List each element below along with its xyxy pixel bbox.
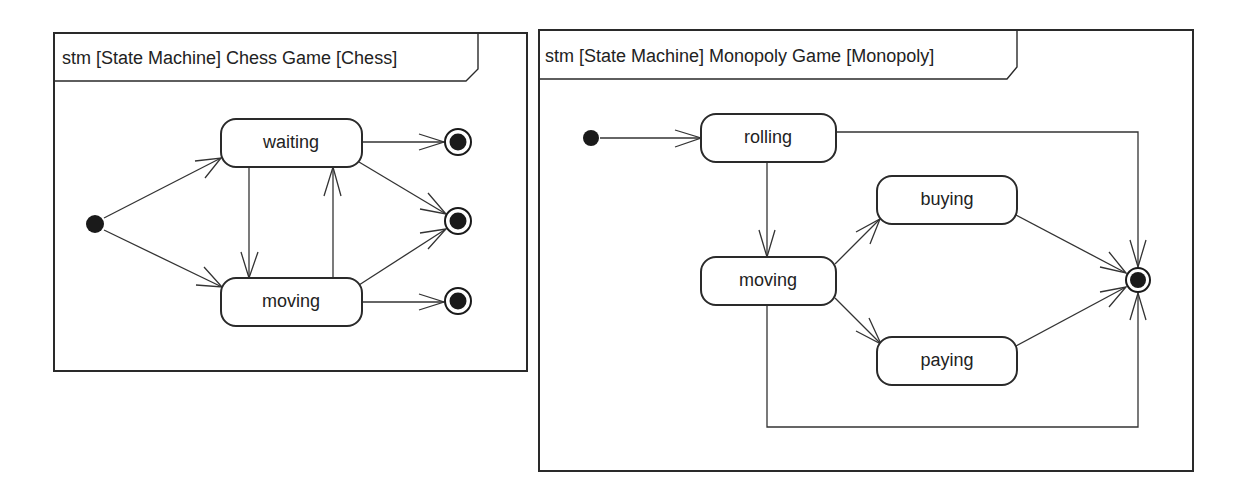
transition-moving-final-2 [359, 229, 446, 285]
transition-initial-waiting [104, 158, 221, 218]
monopoly-state-machine-frame: stm [State Machine] Monopoly Game [Monop… [539, 30, 1193, 471]
monopoly-frame-border [539, 30, 1193, 471]
state-label: waiting [262, 132, 319, 152]
chess-final-state-1-icon[interactable] [445, 129, 471, 155]
chess-state-moving[interactable]: moving [221, 278, 362, 326]
transition-paying-final [1016, 287, 1126, 346]
transition-moving-paying [835, 298, 881, 344]
monopoly-state-buying[interactable]: buying [877, 176, 1017, 224]
monopoly-frame-title: stm [State Machine] Monopoly Game [Monop… [545, 46, 934, 66]
chess-state-waiting[interactable]: waiting [221, 119, 362, 167]
arrowhead-icon [1100, 287, 1126, 307]
transition-buying-final [1016, 215, 1126, 273]
state-label: paying [920, 350, 973, 370]
transition-moving-buying [835, 219, 880, 264]
monopoly-state-paying[interactable]: paying [877, 337, 1017, 385]
transition-waiting-final-2 [359, 162, 446, 214]
diagram-canvas: stm [State Machine] Chess Game [Chess] [0, 0, 1244, 495]
monopoly-transitions [600, 130, 1146, 427]
chess-initial-state-icon[interactable] [86, 215, 104, 233]
state-label: moving [739, 270, 797, 290]
state-label: moving [262, 291, 320, 311]
monopoly-state-moving[interactable]: moving [701, 257, 836, 305]
arrowhead-icon [1100, 252, 1126, 273]
chess-frame-title: stm [State Machine] Chess Game [Chess] [62, 48, 397, 68]
monopoly-initial-state-icon[interactable] [583, 130, 599, 146]
transition-initial-moving [104, 230, 222, 287]
monopoly-state-rolling[interactable]: rolling [701, 114, 836, 162]
chess-state-machine-frame: stm [State Machine] Chess Game [Chess] [54, 33, 527, 371]
chess-final-state-2-icon[interactable] [445, 208, 471, 234]
arrowhead-icon [195, 158, 221, 178]
arrowhead-icon [420, 193, 446, 214]
monopoly-final-state-icon[interactable] [1126, 268, 1150, 292]
chess-final-state-3-icon[interactable] [445, 288, 471, 314]
state-label: rolling [744, 127, 792, 147]
state-label: buying [920, 189, 973, 209]
